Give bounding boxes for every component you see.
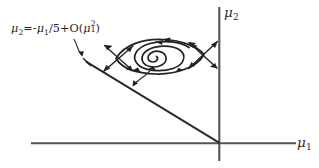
crossing-arrows-right [188, 41, 218, 69]
formula-leader-arrowhead [78, 51, 83, 56]
formula-mu-c: μ [83, 22, 90, 35]
formula-sub-1b: 1 [91, 26, 96, 34]
figure-canvas: μ2 μ1 μ2=-μ1/5+O(μ21) [0, 0, 319, 168]
axis-label-mu1-subscript: 1 [306, 142, 312, 152]
axis-label-mu1-symbol: μ [297, 134, 306, 150]
formula-big-o: O( [70, 22, 84, 35]
formula-equals: = [23, 22, 32, 35]
axis-label-mu2-symbol: μ [224, 4, 233, 20]
bifurcation-line-end-tick [84, 59, 91, 66]
formula-plus: + [60, 22, 69, 35]
crossing-arrows-left [103, 45, 133, 72]
axis-label-mu1: μ1 [297, 136, 312, 152]
formula-close-paren: ) [95, 22, 99, 35]
crossing-right-arrow-down-right [210, 63, 217, 69]
formula-leader-group [74, 40, 84, 57]
inner-spiral-path [135, 42, 189, 71]
formula-mu-b: μ [37, 22, 44, 35]
axis-label-mu2: μ2 [224, 6, 239, 22]
formula-mu-c-indices: 21 [91, 21, 96, 32]
formula-annotation: μ2=-μ1/5+O(μ21) [11, 21, 100, 37]
axis-label-mu2-subscript: 2 [233, 12, 239, 22]
inner-spiral-group [135, 40, 189, 71]
formula-over-five: /5 [49, 22, 60, 35]
